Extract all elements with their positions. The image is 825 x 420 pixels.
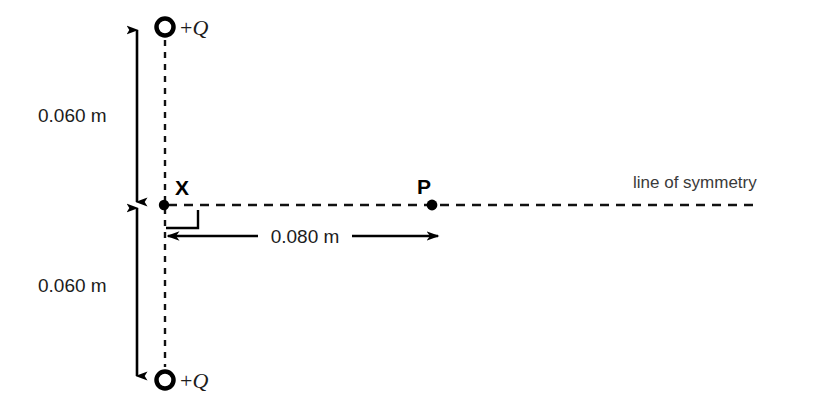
point-x-marker	[159, 200, 169, 210]
point-p-label: P	[417, 175, 431, 198]
point-x-label: X	[175, 176, 189, 199]
charge-top-symbol: Q	[192, 15, 208, 40]
charge-top-label: +Q	[180, 15, 208, 40]
lower-dimension-label: 0.060 m	[38, 275, 107, 296]
point-p-marker	[427, 200, 438, 211]
charge-bottom-marker	[157, 372, 174, 389]
charge-bottom-label: +Q	[180, 368, 208, 393]
upper-dimension-label: 0.060 m	[38, 105, 107, 126]
right-angle-icon	[166, 210, 198, 228]
charge-top-marker	[157, 19, 174, 36]
charge-bottom-plus: +	[180, 368, 192, 393]
charge-bottom-symbol: Q	[192, 368, 208, 393]
physics-diagram-figure: +Q +Q 0.060 m 0.060 m 0.080 m X P line o…	[0, 0, 825, 420]
charge-top-plus: +	[180, 15, 192, 40]
diagram-canvas: +Q +Q 0.060 m 0.060 m 0.080 m X P line o…	[0, 0, 825, 420]
line-of-symmetry-caption: line of symmetry	[633, 173, 757, 192]
horizontal-dimension-label: 0.080 m	[271, 226, 340, 247]
